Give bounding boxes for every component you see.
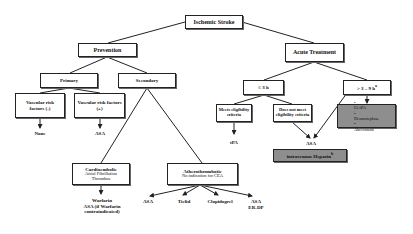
le-3h-node: ≤ 3 h [243, 80, 284, 95]
primary-node: Primary [40, 73, 98, 88]
meets-criteria-node: Meets eligibility criteria [216, 104, 252, 122]
cardioembolic-node: Cardioembolic Atrial Fibrillation Thromb… [72, 163, 130, 185]
prevention-label: Prevention [94, 47, 122, 53]
heparin-label-wrap: intravenous Heparinb [287, 152, 334, 159]
gt-3-9h-footnote: a [375, 83, 377, 88]
outcome-asa-er-dp: ASA ER-DP [243, 199, 269, 210]
vascular-risk-positive-node: Vascular risk factors (+) [74, 93, 125, 118]
outcome-tpa: tPA [221, 140, 247, 146]
outcome-clopidogrel: Clopidogrel [200, 199, 240, 205]
heparin-label: intravenous Heparin [287, 154, 331, 159]
outcome-ticlid: Ticlid [170, 199, 198, 205]
atherothrombotic-sub1: No indication for CEA [182, 174, 223, 179]
vascular-risk-negative-node: Vascular risk factors (-) [15, 93, 65, 118]
option-desmoteplase: • Desmoteplase [354, 111, 379, 122]
er-dp-label: ER-DP [243, 205, 269, 211]
vascular-risk-negative-label: Vascular risk factors (-) [18, 100, 62, 111]
cardioembolic-sub2: Thrombus [92, 177, 111, 182]
acute-treatment-label: Acute Treatment [293, 49, 336, 55]
investigational-options-node: • IA tPA • Desmoteplase • Abciximab [337, 104, 396, 128]
acute-treatment-node: Acute Treatment [285, 43, 344, 62]
gt-3-9h-node: > 3 – 9 ha [343, 80, 391, 95]
secondary-label: Secondary [136, 78, 159, 83]
atherothrombotic-node: Atherothrombotic No indication for CEA [167, 163, 238, 185]
outcome-asa-athero: ASA [135, 199, 161, 205]
not-meets-criteria-label: Does not meet eligibility criteria [275, 108, 310, 117]
investigational-options-list: • IA tPA • Desmoteplase • Abciximab [354, 100, 379, 132]
ischemic-stroke-node: Ischemic Stroke [185, 15, 243, 29]
option-abciximab: • Abciximab [354, 121, 379, 132]
secondary-node: Secondary [118, 73, 176, 88]
gt-3-9h-label: > 3 – 9 h [357, 86, 375, 91]
not-meets-criteria-node: Does not meet eligibility criteria [273, 104, 312, 122]
ischemic-stroke-label: Ischemic Stroke [193, 19, 234, 25]
vascular-risk-positive-label: Vascular risk factors (+) [77, 100, 122, 111]
outcome-none: None [25, 131, 55, 137]
heparin-node: intravenous Heparinb [273, 149, 347, 162]
meets-criteria-label: Meets eligibility criteria [218, 108, 250, 117]
le-3h-label: ≤ 3 h [258, 85, 269, 90]
outcome-asa-acute: ASA [298, 141, 324, 147]
contraindicated-label: contraindicated) [66, 209, 138, 215]
outcome-asa-primary: ASA [85, 131, 115, 137]
cardioembolic-outcome: Warfarin ASA (if Warfarin contraindicate… [66, 198, 138, 215]
primary-label: Primary [60, 78, 78, 83]
option-ia-tpa: • IA tPA [354, 100, 379, 111]
prevention-node: Prevention [78, 43, 137, 57]
heparin-footnote: b [331, 151, 333, 156]
gt-3-9h-label-wrap: > 3 – 9 ha [357, 84, 377, 91]
